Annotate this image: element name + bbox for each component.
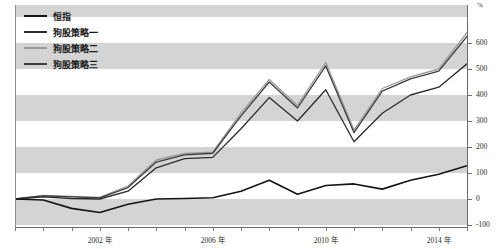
y-axis-tick: [467, 147, 472, 148]
legend-item-label: 狗股策略二: [53, 42, 98, 55]
x-axis-tick-label: 2006 年: [201, 236, 225, 245]
x-axis-tick: [326, 228, 327, 231]
x-axis-tick: [100, 228, 101, 231]
legend-item-label: 狗股策略一: [53, 26, 98, 39]
legend-swatch-line-icon: [24, 47, 47, 49]
y-axis-tick: [467, 69, 472, 70]
x-axis-tick: [185, 228, 186, 231]
x-axis-tick: [241, 228, 242, 231]
legend-item-2[interactable]: 狗股策略一: [24, 24, 98, 40]
y-axis-tick: [467, 173, 472, 174]
legend-swatch-line-icon: [24, 15, 47, 17]
y-axis-tick-label: 300: [476, 117, 487, 125]
x-axis-tick: [269, 228, 270, 231]
y-axis-tick: [467, 121, 472, 122]
legend-item-label: 恒指: [53, 10, 71, 23]
legend-item-4[interactable]: 狗股策略三: [24, 56, 98, 72]
x-axis-tick-label: 2014 年: [427, 236, 451, 245]
y-axis-tick-label: 0: [476, 195, 480, 203]
x-axis-tick: [15, 228, 16, 231]
legend-swatch-line-icon: [24, 63, 47, 65]
y-axis-unit-label: %: [477, 1, 483, 9]
x-axis-tick-label: 2002 年: [88, 236, 112, 245]
x-axis-tick: [439, 228, 440, 231]
x-axis-tick-label: 2010 年: [314, 236, 338, 245]
y-axis-tick-label: 200: [476, 143, 487, 151]
x-axis-tick: [411, 228, 412, 231]
x-axis-tick: [298, 228, 299, 231]
y-axis-left-line: [15, 5, 16, 227]
legend: 恒指狗股策略一狗股策略二狗股策略三: [24, 8, 98, 72]
y-axis-tick-label: 600: [476, 39, 487, 47]
chart-root: % 6005004003002001000-100 2002 年2006 年20…: [0, 0, 500, 249]
y-axis-tick-label: 400: [476, 91, 487, 99]
y-axis-tick-label: -100: [476, 221, 490, 229]
x-axis-tick: [43, 228, 44, 231]
legend-item-3[interactable]: 狗股策略二: [24, 40, 98, 56]
legend-item-1[interactable]: 恒指: [24, 8, 98, 24]
series-line-1: [15, 166, 467, 213]
x-axis-tick: [128, 228, 129, 231]
x-axis-tick: [354, 228, 355, 231]
x-axis-tick: [382, 228, 383, 231]
x-axis-tick: [213, 228, 214, 231]
y-axis-tick-label: 100: [476, 169, 487, 177]
y-axis-tick-label: 500: [476, 65, 487, 73]
y-axis-tick: [467, 199, 472, 200]
y-axis-tick: [467, 95, 472, 96]
x-axis-tick: [467, 228, 468, 231]
y-axis-tick: [467, 43, 472, 44]
x-axis-tick: [72, 228, 73, 231]
legend-item-label: 狗股策略三: [53, 58, 98, 71]
y-axis-right-line: [467, 5, 468, 227]
legend-swatch-line-icon: [24, 31, 47, 33]
y-axis-tick: [467, 225, 472, 226]
x-axis-tick: [156, 228, 157, 231]
